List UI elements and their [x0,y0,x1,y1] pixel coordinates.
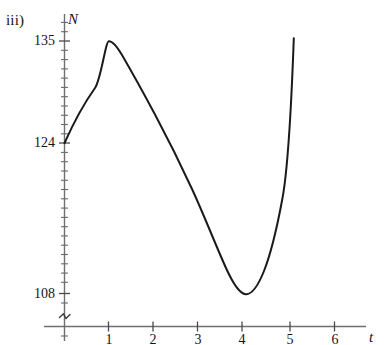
y-tick-label-124: 124 [25,136,55,150]
curve-path [65,38,294,294]
y-tick-label-108: 108 [25,287,55,301]
graph-canvas [0,0,387,345]
x-tick-label-2: 2 [143,333,163,345]
x-tick-label-4: 4 [232,333,252,345]
y-axis-label: N [68,12,78,27]
x-tick-label-5: 5 [280,333,300,345]
part-label: iii) [6,13,24,28]
x-tick-label-6: 6 [325,333,345,345]
y-tick-label-135: 135 [25,34,55,48]
x-tick-label-1: 1 [99,333,119,345]
x-axis-label: t [369,330,373,345]
graph-figure: iii) N t 135 124 108 1 2 3 4 5 6 [0,0,387,345]
x-tick-label-3: 3 [188,333,208,345]
